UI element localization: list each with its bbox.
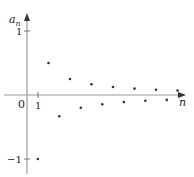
y-tick-label-1: 1 xyxy=(16,26,22,37)
x-axis-label: n xyxy=(179,96,186,109)
data-point xyxy=(58,115,61,118)
sequence-plot: an n 0 1 1 −1 xyxy=(0,0,194,177)
data-point xyxy=(144,100,147,103)
y-axis-arrow-icon xyxy=(24,13,30,21)
data-point xyxy=(133,87,136,90)
data-point xyxy=(101,103,104,106)
data-point xyxy=(166,99,169,102)
axes xyxy=(4,13,186,174)
data-point xyxy=(155,88,158,91)
y-tick-label-neg1: −1 xyxy=(7,154,22,165)
x-tick-label-1: 1 xyxy=(35,100,41,111)
data-point xyxy=(47,62,50,65)
data-point xyxy=(176,89,179,92)
data-point xyxy=(123,101,126,104)
data-points xyxy=(37,62,179,161)
data-point xyxy=(80,107,83,110)
data-point xyxy=(90,83,93,86)
data-point xyxy=(112,86,115,89)
axis-labels: an n 0 1 1 −1 xyxy=(7,13,186,165)
data-point xyxy=(69,78,72,81)
data-point xyxy=(37,158,40,161)
origin-label: 0 xyxy=(18,98,25,111)
